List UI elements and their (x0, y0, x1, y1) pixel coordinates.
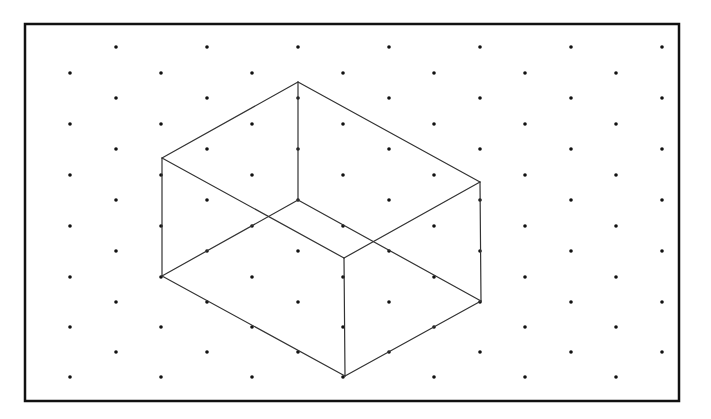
grid-dot (341, 122, 345, 126)
grid-dot (68, 122, 72, 126)
grid-dot (660, 198, 664, 202)
grid-dot (432, 173, 436, 177)
grid-dot (569, 198, 573, 202)
grid-dot (68, 173, 72, 177)
grid-dot (478, 45, 482, 49)
grid-dot (68, 224, 72, 228)
grid-dot (250, 275, 254, 279)
grid-dot (569, 249, 573, 253)
background (0, 0, 711, 419)
grid-dot (478, 96, 482, 100)
grid-dot (68, 275, 72, 279)
grid-dot (250, 71, 254, 75)
grid-dot (523, 122, 527, 126)
grid-dot (614, 173, 618, 177)
grid-dot (660, 350, 664, 354)
grid-dot (614, 375, 618, 379)
grid-dot (614, 224, 618, 228)
grid-dot (660, 96, 664, 100)
grid-dot (523, 71, 527, 75)
grid-dot (296, 300, 300, 304)
grid-dot (660, 147, 664, 151)
grid-dot (114, 96, 118, 100)
grid-dot (569, 300, 573, 304)
grid-dot (114, 249, 118, 253)
grid-dot (569, 350, 573, 354)
grid-dot (68, 325, 72, 329)
grid-dot (341, 71, 345, 75)
grid-dot (68, 71, 72, 75)
grid-dot (205, 96, 209, 100)
grid-dot (523, 325, 527, 329)
grid-dot (114, 147, 118, 151)
grid-dot (205, 147, 209, 151)
grid-dot (205, 198, 209, 202)
grid-dot (387, 198, 391, 202)
grid-dot (159, 71, 163, 75)
grid-dot (569, 147, 573, 151)
grid-dot (523, 275, 527, 279)
grid-dot (478, 147, 482, 151)
grid-dot (250, 122, 254, 126)
grid-dot (114, 350, 118, 354)
grid-dot (569, 45, 573, 49)
grid-dot (660, 300, 664, 304)
grid-dot (296, 249, 300, 253)
grid-dot (387, 147, 391, 151)
grid-dot (159, 375, 163, 379)
grid-dot (660, 249, 664, 253)
grid-dot (159, 122, 163, 126)
grid-dot (114, 45, 118, 49)
grid-dot (250, 173, 254, 177)
grid-dot (432, 224, 436, 228)
grid-dot (205, 45, 209, 49)
grid-dot (114, 198, 118, 202)
grid-dot (432, 122, 436, 126)
grid-dot (159, 325, 163, 329)
grid-dot (614, 71, 618, 75)
grid-dot (387, 96, 391, 100)
grid-dot (660, 45, 664, 49)
grid-dot (250, 375, 254, 379)
grid-dot (432, 375, 436, 379)
grid-dot (296, 45, 300, 49)
grid-dot (341, 173, 345, 177)
grid-dot (387, 300, 391, 304)
grid-dot (569, 96, 573, 100)
grid-dot (614, 122, 618, 126)
grid-dot (387, 45, 391, 49)
grid-dot (614, 275, 618, 279)
grid-dot (114, 300, 118, 304)
grid-dot (523, 224, 527, 228)
grid-dot (523, 173, 527, 177)
isometric-diagram (0, 0, 711, 419)
grid-dot (68, 375, 72, 379)
grid-dot (523, 375, 527, 379)
grid-dot (478, 350, 482, 354)
grid-dot (432, 71, 436, 75)
grid-dot (614, 325, 618, 329)
grid-dot (205, 350, 209, 354)
